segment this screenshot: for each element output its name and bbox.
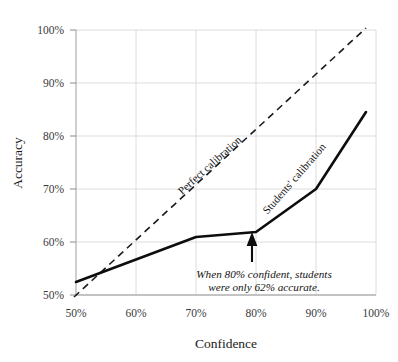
y-tick-label-60: 60% [43,236,65,248]
calibration-chart-figure: 100% 90% 80% 70% 60% 50% 50% 60% 70% 80%… [0,0,398,362]
y-tick-label-80: 80% [43,130,65,142]
x-tick-label-70: 70% [185,307,207,319]
x-tick-label-60: 60% [125,307,147,319]
y-tick-label-50: 50% [43,289,65,301]
y-tick-label-100: 100% [37,24,64,36]
annotation-line-1: When 80% confident, students [196,268,332,280]
y-tick-label-90: 90% [43,77,65,89]
chart-canvas: 100% 90% 80% 70% 60% 50% 50% 60% 70% 80%… [0,0,398,362]
annotation-line-2: were only 62% accurate. [208,281,319,293]
x-tick-label-100: 100% [363,307,390,319]
y-axis-title: Accuracy [10,137,25,189]
x-tick-label-50: 50% [65,307,87,319]
x-tick-label-90: 90% [305,307,327,319]
x-axis-title: Confidence [195,336,257,351]
y-tick-label-70: 70% [43,183,65,195]
x-tick-label-80: 80% [245,307,267,319]
